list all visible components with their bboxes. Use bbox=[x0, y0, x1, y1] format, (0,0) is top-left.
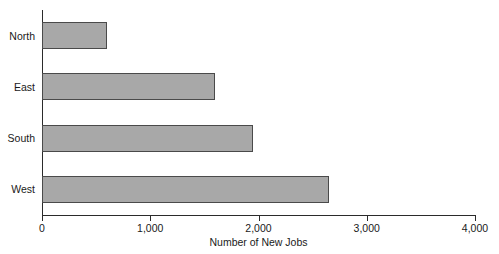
bar-north bbox=[42, 22, 107, 49]
x-tick-label-2: 2,000 bbox=[245, 222, 271, 235]
category-label-north: North bbox=[9, 29, 35, 42]
x-tick-label-3: 3,000 bbox=[354, 222, 380, 235]
category-label-east: East bbox=[14, 80, 35, 93]
bar-south bbox=[42, 125, 253, 152]
bar-chart: NorthEastSouthWest 01,0002,0003,0004,000… bbox=[0, 0, 499, 254]
x-tick-0 bbox=[42, 216, 43, 221]
x-tick-label-1: 1,000 bbox=[137, 222, 163, 235]
x-tick-4 bbox=[475, 216, 476, 221]
bar-east bbox=[42, 73, 215, 100]
x-tick-1 bbox=[150, 216, 151, 221]
x-axis-title: Number of New Jobs bbox=[42, 236, 475, 249]
x-tick-label-0: 0 bbox=[39, 222, 45, 235]
x-tick-3 bbox=[367, 216, 368, 221]
category-label-south: South bbox=[8, 132, 35, 145]
bar-west bbox=[42, 176, 329, 203]
x-tick-label-4: 4,000 bbox=[462, 222, 488, 235]
x-tick-2 bbox=[259, 216, 260, 221]
category-label-west: West bbox=[11, 183, 35, 196]
